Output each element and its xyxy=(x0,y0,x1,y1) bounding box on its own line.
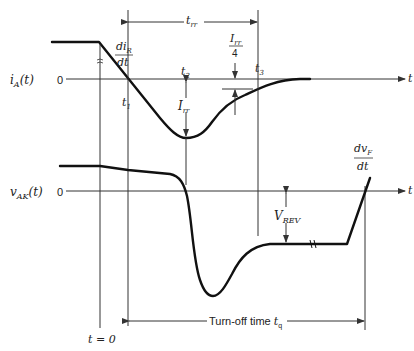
vak-ylabel: vAK(t) xyxy=(10,185,43,201)
ia-axis-t-label: t xyxy=(408,72,413,85)
vak-zero-label: 0 xyxy=(57,186,63,198)
current-plot: iA(t) 0 t diR dt t1 t2 t3 Irr Irr xyxy=(10,13,413,138)
t1-label: t1 xyxy=(122,96,131,111)
vak-axis-t-label: t xyxy=(408,184,413,197)
t-zero-label: t = 0 xyxy=(88,333,116,346)
voltage-plot: vAK(t) 0 t VREV dvF dt xyxy=(10,142,413,296)
ia-ylabel: iA(t) xyxy=(10,73,34,89)
svg-text:dt: dt xyxy=(117,56,129,69)
svg-text:dt: dt xyxy=(357,160,369,173)
dir-dt-label: diR dt xyxy=(115,40,133,69)
irr-quarter-label: Irr 4 xyxy=(229,32,243,59)
reverse-recovery-diagram: iA(t) 0 t diR dt t1 t2 t3 Irr Irr xyxy=(0,0,414,351)
ia-zero-label: 0 xyxy=(57,74,63,86)
dvf-dt-label: dvF dt xyxy=(354,142,373,173)
svg-text:dvF: dvF xyxy=(354,142,373,157)
svg-text:diR: diR xyxy=(116,40,133,55)
svg-text:4: 4 xyxy=(232,48,238,59)
t3-label: t3 xyxy=(255,62,264,77)
turnoff-dimension: Turn-off time tq xyxy=(129,312,364,330)
vak-waveform xyxy=(60,166,370,296)
ia-waveform xyxy=(52,42,310,138)
t2-label: t2 xyxy=(181,65,190,80)
svg-text:Irr: Irr xyxy=(229,32,242,47)
